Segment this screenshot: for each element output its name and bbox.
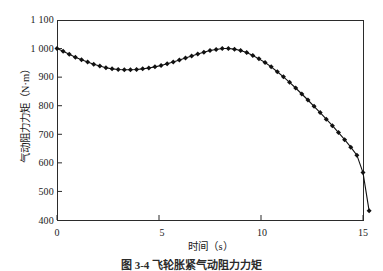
figure-caption: 图 3-4 飞轮胀紧气动阻力力矩 [0,259,383,271]
y-tick-label: 400 [2,216,54,226]
x-tick-label: 0 [37,228,77,238]
x-tick-label: 15 [343,228,383,238]
x-axis-title: 时间（s） [57,241,364,252]
y-axis-title: 气动阻力力矩（N·m） [20,19,31,209]
x-tick-label: 5 [142,228,182,238]
series-marker [367,208,372,213]
x-tick-label: 10 [242,228,282,238]
plot-area [57,20,364,221]
